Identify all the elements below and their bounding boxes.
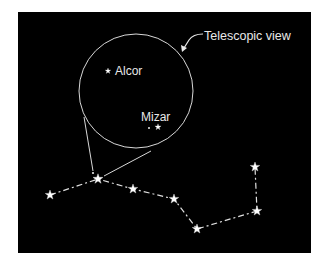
star-icon (93, 174, 103, 184)
mizar-label: Mizar (141, 110, 170, 124)
alcor-star-icon (105, 68, 111, 73)
alcor-label: Alcor (115, 64, 142, 78)
constellation-mizar-dot (92, 172, 94, 174)
mizar-star-icon (155, 124, 161, 130)
star-icon (192, 224, 202, 233)
star-icon (128, 184, 138, 193)
big-dipper-diagram: Telescopic view Alcor Mizar (0, 0, 328, 268)
telescopic-view-circle (79, 34, 193, 148)
projection-lines (84, 117, 151, 176)
star-icon (169, 194, 179, 203)
callout-leader (181, 34, 203, 52)
star-icon (45, 190, 55, 199)
telescopic-view-label: Telescopic view (204, 29, 292, 43)
constellation-stars (45, 162, 262, 233)
arrowhead-icon (181, 45, 187, 52)
constellation-lines (50, 167, 257, 229)
mizar-companion-dot (148, 127, 150, 129)
star-icon (252, 206, 262, 215)
